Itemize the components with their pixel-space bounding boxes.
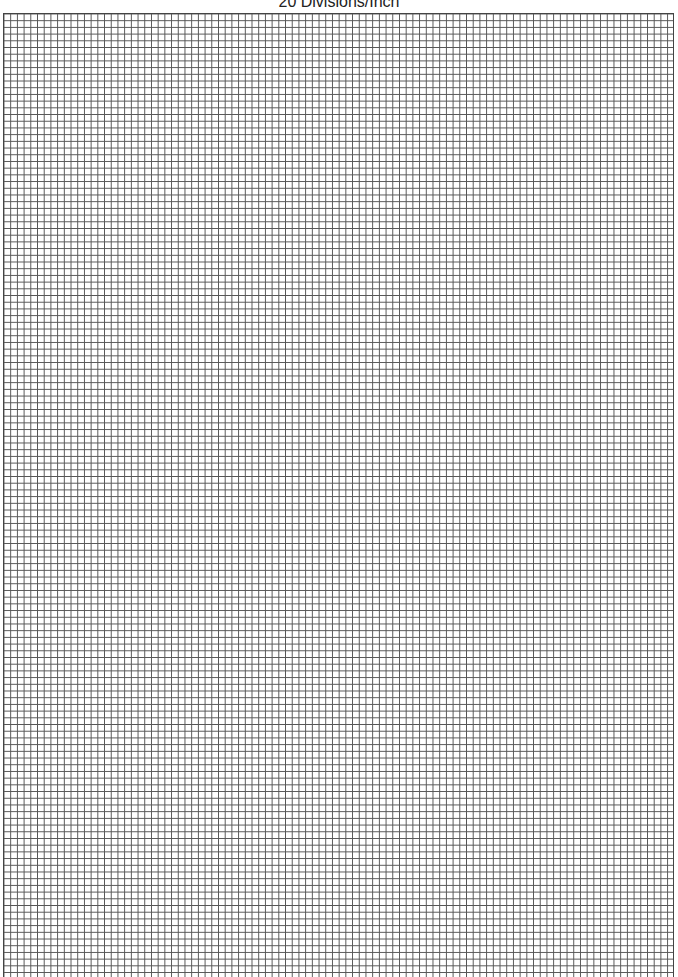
page-title: 20 Divisions/Inch (0, 0, 678, 11)
graph-paper-grid (3, 13, 674, 977)
